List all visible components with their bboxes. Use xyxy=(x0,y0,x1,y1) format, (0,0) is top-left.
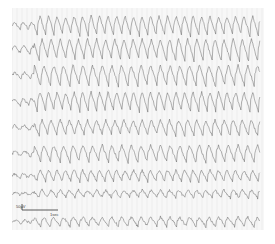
eeg-channel-trace xyxy=(12,189,260,199)
eeg-channel-trace xyxy=(12,119,260,137)
eeg-channel-trace xyxy=(12,91,260,113)
eeg-traces xyxy=(12,8,264,230)
eeg-channel-trace xyxy=(12,144,260,164)
eeg-channel-trace xyxy=(12,15,260,37)
eeg-channel-trace xyxy=(12,38,260,62)
eeg-channel-trace xyxy=(12,64,260,87)
calibration-bar xyxy=(22,204,58,210)
eeg-channel-trace xyxy=(12,216,260,228)
eeg-paper: 50µV 1sec xyxy=(12,8,264,230)
calibration-time-label: 1sec xyxy=(50,212,58,217)
eeg-channel-trace xyxy=(12,169,260,183)
calibration-amplitude-label: 50µV xyxy=(16,204,25,209)
